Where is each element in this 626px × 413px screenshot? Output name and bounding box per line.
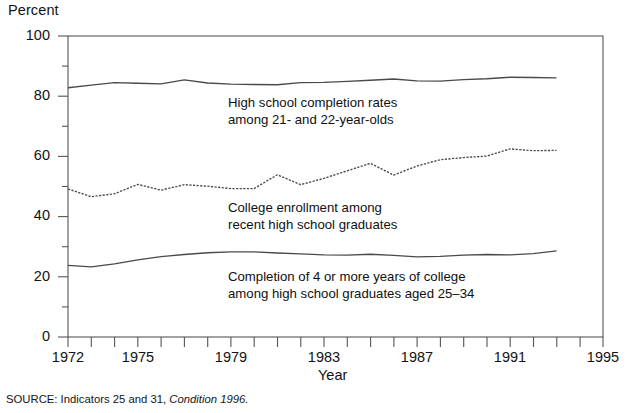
- chart-figure: Percent: [0, 0, 626, 413]
- y-tick-label-100: 100: [4, 27, 50, 43]
- x-tick-label-1987: 1987: [389, 349, 445, 365]
- source-prefix: SOURCE: Indicators 25 and 31,: [6, 393, 166, 405]
- y-axis-title: Percent: [8, 2, 59, 18]
- y-minor-ticks: [62, 66, 68, 307]
- x-ticks: [68, 337, 603, 347]
- x-tick-label-1975: 1975: [110, 349, 166, 365]
- annotation-cc-line1: Completion of 4 or more years of college: [228, 269, 466, 284]
- annotation-cc-line2: among high school graduates aged 25–34: [228, 286, 474, 303]
- series-line-college-enrollment: [68, 149, 556, 197]
- y-tick-label-80: 80: [4, 87, 50, 103]
- annotation-college-enrollment: College enrollment among recent high sch…: [228, 200, 397, 233]
- y-tick-label-20: 20: [4, 268, 50, 284]
- annotation-ce-line2: recent high school graduates: [228, 217, 397, 234]
- y-tick-label-0: 0: [4, 328, 50, 344]
- series-line-college-completion: [68, 251, 556, 267]
- x-tick-label-1972: 1972: [40, 349, 96, 365]
- y-tick-label-40: 40: [4, 207, 50, 223]
- annotation-college-completion: Completion of 4 or more years of college…: [228, 269, 474, 302]
- series-line-high-school-completion: [68, 77, 556, 88]
- x-tick-label-1991: 1991: [482, 349, 538, 365]
- x-tick-label-1979: 1979: [203, 349, 259, 365]
- annotation-hs-line1: High school completion rates: [228, 95, 397, 110]
- annotation-hs-line2: among 21- and 22-year-olds: [228, 112, 397, 129]
- annotation-high-school-completion: High school completion rates among 21- a…: [228, 95, 397, 128]
- x-axis-title: Year: [318, 367, 347, 383]
- x-tick-label-1995: 1995: [575, 349, 626, 365]
- source-citation: Condition 1996.: [169, 393, 248, 405]
- y-tick-label-60: 60: [4, 147, 50, 163]
- x-tick-label-1983: 1983: [296, 349, 352, 365]
- source-note: SOURCE: Indicators 25 and 31, Condition …: [6, 393, 248, 405]
- annotation-ce-line1: College enrollment among: [228, 200, 382, 215]
